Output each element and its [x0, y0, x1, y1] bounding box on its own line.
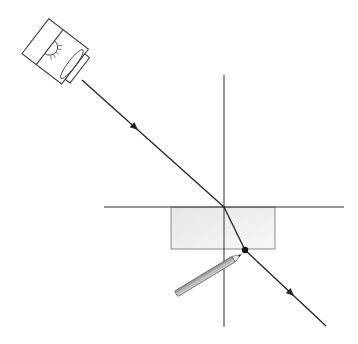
diagram-canvas — [0, 0, 358, 344]
emergent-ray — [245, 250, 326, 326]
glass-block — [171, 207, 275, 249]
ray-box-icon — [22, 19, 93, 88]
pencil-icon — [174, 251, 243, 296]
incident-ray — [82, 80, 224, 207]
exit-point-dot — [242, 247, 248, 253]
refraction-diagram — [0, 0, 358, 344]
